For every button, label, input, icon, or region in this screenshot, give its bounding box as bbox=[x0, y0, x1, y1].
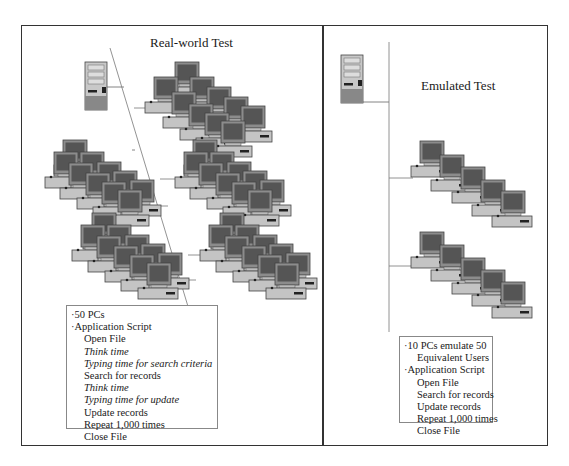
real-world-test-title: Real-world Test bbox=[150, 35, 233, 51]
script-step: Update records bbox=[404, 401, 487, 413]
pc-count-item-continued: Equivalent Users bbox=[404, 352, 487, 364]
script-step: Open File bbox=[71, 333, 212, 345]
script-step: Open File bbox=[404, 377, 487, 389]
script-step: Repeat 1,000 times bbox=[71, 419, 212, 431]
script-step: Think time bbox=[71, 346, 212, 358]
pc-cluster-5 bbox=[200, 213, 317, 299]
script-step: Close File bbox=[404, 425, 487, 437]
script-step: Typing time for update bbox=[71, 394, 212, 406]
script-step: Search for records bbox=[71, 370, 212, 382]
pc-count-item: ·50 PCs bbox=[71, 309, 212, 321]
server-icon bbox=[341, 55, 363, 103]
script-step: Repeat 1,000 times bbox=[404, 413, 487, 425]
script-step: Typing time for search criteria bbox=[71, 358, 212, 370]
script-step: Update records bbox=[71, 407, 212, 419]
real-world-script-box: ·50 PCs ·Application Script Open File Th… bbox=[66, 305, 218, 429]
script-step: Close File bbox=[71, 431, 212, 443]
script-heading: ·Application Script bbox=[404, 364, 487, 376]
server-icon bbox=[85, 62, 107, 110]
pc-row-2 bbox=[411, 232, 532, 318]
pc-count-item: ·10 PCs emulate 50 bbox=[404, 340, 487, 352]
script-heading: ·Application Script bbox=[71, 321, 212, 333]
pc-cluster-4 bbox=[72, 213, 189, 299]
emulated-script-box: ·10 PCs emulate 50 Equivalent Users ·App… bbox=[399, 336, 493, 423]
script-step: Search for records bbox=[404, 389, 487, 401]
emulated-test-title: Emulated Test bbox=[421, 78, 495, 94]
pc-row-1 bbox=[411, 141, 532, 227]
script-step: Think time bbox=[71, 382, 212, 394]
